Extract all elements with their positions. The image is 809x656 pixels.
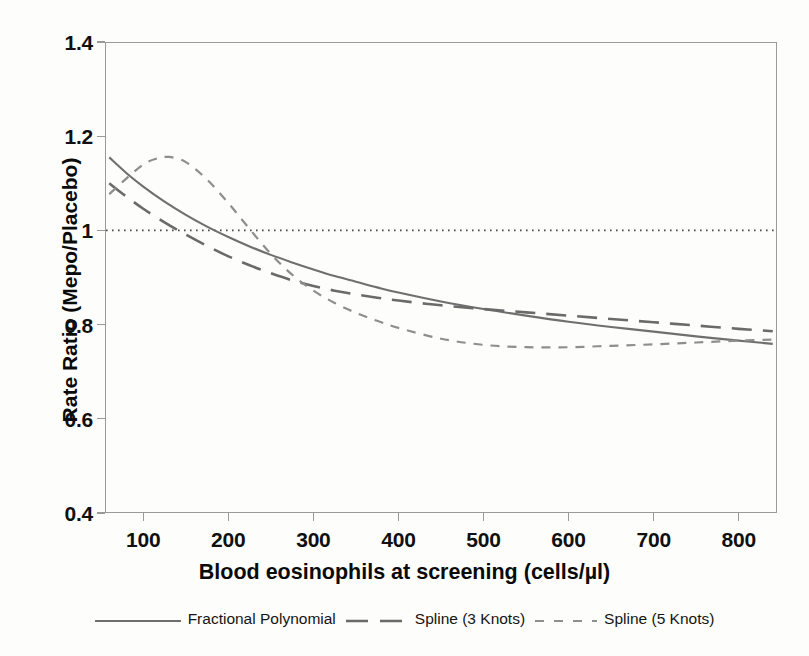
y-tick-label: 0.8	[37, 314, 93, 335]
legend-item: Fractional Polynomial	[95, 610, 336, 628]
y-tick-mark	[97, 418, 105, 419]
legend-line-swatch	[95, 613, 181, 625]
x-tick-mark	[143, 513, 144, 521]
x-tick-mark	[228, 513, 229, 521]
legend-item-label: Fractional Polynomial	[188, 610, 336, 628]
x-tick-mark	[568, 513, 569, 521]
legend-line-swatch	[535, 613, 597, 625]
legend-item-label: Spline (5 Knots)	[604, 610, 714, 628]
y-tick-label: 1	[37, 220, 93, 241]
x-tick-mark	[483, 513, 484, 521]
legend-item-label: Spline (3 Knots)	[415, 610, 525, 628]
y-tick-mark	[97, 136, 105, 137]
y-tick-mark	[97, 324, 105, 325]
x-tick-label: 800	[699, 529, 779, 550]
y-tick-mark	[97, 512, 105, 513]
x-tick-label: 300	[273, 529, 353, 550]
y-tick-label: 0.6	[37, 408, 93, 429]
x-tick-label: 100	[103, 529, 183, 550]
x-tick-mark	[398, 513, 399, 521]
x-tick-label: 200	[188, 529, 268, 550]
legend-item: Spline (5 Knots)	[535, 610, 714, 628]
figure-container: Rate Ratio (Mepo/Placebo) Blood eosinoph…	[0, 0, 809, 656]
y-tick-label: 1.2	[37, 126, 93, 147]
x-tick-mark	[653, 513, 654, 521]
x-tick-label: 500	[444, 529, 524, 550]
y-tick-label: 1.4	[37, 32, 93, 53]
legend: Fractional PolynomialSpline (3 Knots)Spl…	[0, 610, 809, 628]
x-tick-mark	[738, 513, 739, 521]
plot-area	[105, 42, 777, 513]
y-tick-label: 0.4	[37, 503, 93, 524]
x-tick-label: 600	[529, 529, 609, 550]
legend-item: Spline (3 Knots)	[346, 610, 525, 628]
x-tick-mark	[313, 513, 314, 521]
y-tick-mark	[97, 230, 105, 231]
y-tick-mark	[97, 41, 105, 42]
x-tick-label: 400	[358, 529, 438, 550]
legend-line-swatch	[346, 613, 408, 625]
x-tick-label: 700	[614, 529, 694, 550]
x-axis-title: Blood eosinophils at screening (cells/µl…	[0, 560, 809, 585]
